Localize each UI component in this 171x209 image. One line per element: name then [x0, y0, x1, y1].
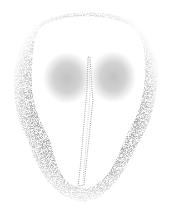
left-stippled-lobe	[43, 52, 91, 104]
stippled-specimen-illustration	[0, 0, 171, 209]
right-stippled-lobe	[90, 51, 136, 103]
